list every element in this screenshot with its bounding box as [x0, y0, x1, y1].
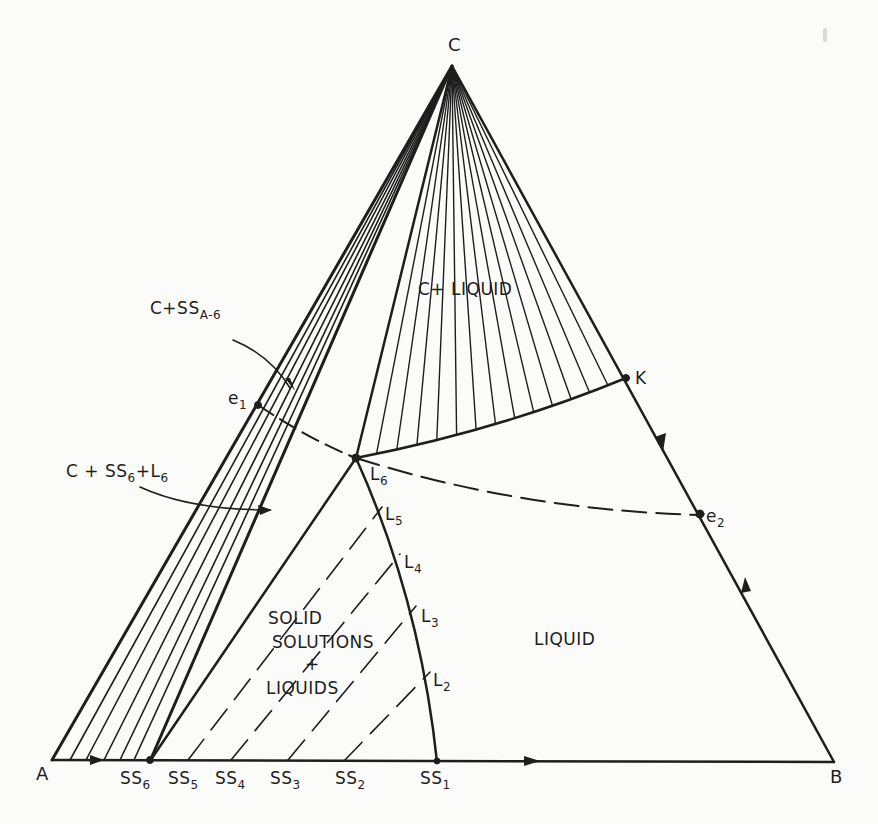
ss-sub: 2 [358, 778, 366, 792]
baseline-label-ss4: SS4 [215, 770, 246, 791]
point-l6 [352, 454, 360, 462]
ss-sub: 6 [143, 778, 151, 792]
point-l6-label: L6 [370, 466, 388, 487]
point-l2-label: L2 [433, 672, 451, 693]
point-e2-label: e2 [706, 508, 725, 529]
tie-line-c-ss [104, 66, 452, 760]
side-ab [52, 760, 834, 762]
vertex-a-label: A [36, 765, 49, 783]
tie-line-c-liquid [452, 66, 534, 412]
e1-main: e [228, 388, 239, 408]
l3-sub: 3 [431, 616, 439, 630]
point-ss1 [434, 758, 440, 764]
side-ac [52, 66, 452, 760]
l5-main: L [385, 504, 395, 524]
arrowhead-c-ss6-l6 [258, 505, 272, 515]
tie-line-c-liquid [452, 66, 590, 392]
boundary-c-ss6 [150, 66, 452, 761]
ss-main: SS [215, 768, 238, 788]
arrow-ss1-b [524, 756, 540, 766]
tie-line-c-liquid [452, 66, 571, 399]
baseline-label-ss3: SS3 [270, 770, 301, 791]
tie-line-c-ss [70, 66, 452, 760]
ss-sub: 1 [443, 778, 451, 792]
c-ss6-l6-sub1: 6 [128, 471, 136, 485]
tie-line-c-ss [134, 66, 452, 760]
arrow-b-e2 [741, 577, 751, 593]
l3-main: L [421, 606, 431, 626]
l2-main: L [433, 670, 443, 690]
ss-sub: 4 [238, 778, 246, 792]
cotectic-e1-l6 [258, 405, 356, 458]
baseline-label-ss5: SS5 [168, 770, 199, 791]
tie-lines-c-liquid [377, 66, 608, 454]
c-ss-a6-sub: A-6 [200, 308, 221, 322]
e1-sub: 1 [239, 398, 247, 412]
arrow-a-ss6 [90, 755, 104, 765]
ss-main: SS [168, 768, 191, 788]
region-c-ss6-l6-label: C + SS6+L6 [66, 463, 169, 484]
e2-sub: 2 [717, 516, 725, 530]
point-e2 [696, 510, 704, 518]
point-k [623, 375, 630, 382]
tie-line-c-liquid [452, 66, 608, 385]
point-ss6 [147, 757, 154, 764]
scan-artifact [823, 28, 827, 42]
region-liquid-label: LIQUID [534, 631, 595, 648]
tie-lines-c-ss [70, 66, 452, 760]
ss-sub: 5 [191, 778, 199, 792]
ss-main: SS [120, 768, 143, 788]
point-l5-label: L5 [385, 506, 403, 527]
l4-main: L [404, 552, 414, 572]
region-c-liquid-label: C+ LIQUID [418, 281, 512, 298]
region-solid-line4: LIQUIDS [266, 680, 339, 697]
point-k-label: K [635, 370, 647, 387]
baseline-label-ss1: SS1 [420, 770, 451, 791]
vertex-c-label: C [448, 36, 461, 54]
ss-sub: 3 [293, 778, 301, 792]
tie-line-ss-l [344, 672, 430, 761]
e2-main: e [706, 506, 717, 526]
region-solid-line3: + [305, 656, 320, 673]
point-e1 [255, 402, 262, 409]
tie-line-c-liquid [452, 66, 496, 424]
l2-sub: 2 [443, 680, 451, 694]
ss-main: SS [420, 768, 443, 788]
side-cb [452, 66, 834, 762]
point-l4-label: L4 [404, 554, 422, 575]
point-l3-label: L3 [421, 608, 439, 629]
c-ss6-l6-sub2: 6 [160, 471, 168, 485]
baseline-label-ss2: SS2 [335, 770, 366, 791]
c-ss6-l6-b: +L [136, 461, 161, 481]
l4-sub: 4 [414, 562, 422, 576]
tie-line-c-liquid [452, 66, 515, 418]
cotectic-l6-e2 [356, 458, 700, 515]
phase-diagram [0, 0, 878, 824]
point-e1-label: e1 [228, 390, 247, 411]
c-ss6-l6-a: C + SS [66, 461, 128, 481]
baseline-label-ss6: SS6 [120, 770, 151, 791]
l5-sub: 5 [395, 514, 403, 528]
tie-line-c-liquid [377, 66, 453, 454]
c-ss-a6-main: C+SS [150, 298, 200, 318]
region-c-ss-a6-label: C+SSA-6 [150, 300, 221, 321]
vertex-b-label: B [830, 768, 843, 786]
arrow-k-e2 [655, 433, 666, 452]
ss-main: SS [335, 768, 358, 788]
region-solid-line1: SOLID [268, 610, 322, 627]
l6-sub: 6 [380, 474, 388, 488]
tie-line-c-liquid [452, 66, 553, 406]
ss-main: SS [270, 768, 293, 788]
l6-main: L [370, 464, 380, 484]
region-solid-line2: SOLUTIONS [272, 634, 374, 651]
